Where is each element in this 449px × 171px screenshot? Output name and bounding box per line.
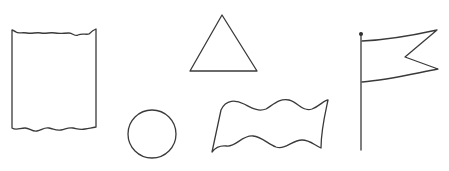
flag-cloth	[362, 30, 438, 82]
pennant-flag-shape	[359, 30, 438, 150]
triangle-shape	[190, 15, 257, 71]
wavy-banner-shape	[212, 100, 328, 152]
shapes-canvas	[0, 0, 449, 171]
circle-shape	[128, 110, 176, 158]
shapes-drawing	[0, 0, 449, 171]
scroll-rectangle-shape	[12, 29, 96, 131]
